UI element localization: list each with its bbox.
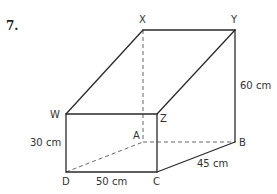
vertex-label-D: D	[62, 176, 70, 187]
dimension-depth: 45 cm	[197, 158, 228, 169]
edge-ZY	[157, 30, 235, 114]
hidden-edges	[66, 30, 235, 172]
vertex-label-X: X	[139, 14, 146, 25]
vertex-label-B: B	[239, 137, 246, 148]
visible-edges	[66, 30, 235, 172]
prism-diagram: 7. W X Y Z D C A B 30 cm 50 cm 45 cm 60 …	[0, 0, 277, 194]
edge-WX	[66, 30, 143, 114]
question-number: 7.	[6, 19, 19, 33]
vertex-label-Y: Y	[230, 14, 238, 25]
vertex-label-Z: Z	[160, 113, 167, 124]
vertex-label-W: W	[50, 109, 60, 120]
dimension-front-width: 50 cm	[96, 176, 127, 187]
vertex-label-A: A	[133, 130, 140, 141]
edge-DA	[66, 142, 143, 172]
vertex-label-C: C	[153, 176, 160, 187]
dimension-front-height: 30 cm	[30, 137, 61, 148]
dimension-back-height: 60 cm	[240, 80, 271, 91]
